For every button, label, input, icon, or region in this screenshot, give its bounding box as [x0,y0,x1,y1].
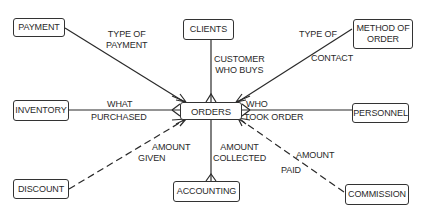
entity-method-of-order-line2: ORDER [367,34,399,45]
entity-commission: COMMISSION [345,184,409,205]
relationship-discount-line1: AMOUNT [152,142,190,153]
relationship-label-method-of-order-line1: TYPE OF [299,29,337,40]
relationship-label-discount: AMOUNT GIVEN [138,142,190,164]
entity-accounting: ACCOUNTING [173,181,240,202]
entity-orders-label: ORDERS [191,106,231,117]
relationship-payment-line2: PAYMENT [106,40,147,51]
entity-accounting-label: ACCOUNTING [177,186,237,197]
relationship-label-personnel: WHO TOOK ORDER [244,99,335,110]
relationship-clients-line2: WHO BUYS [214,65,265,76]
relationship-label-commission-line2: PAID [281,165,301,176]
relationship-payment-line1: TYPE OF [106,29,147,40]
entity-clients: CLIENTS [183,19,234,40]
relationship-inventory-line2: PURCHASED [91,112,147,123]
entity-clients-label: CLIENTS [190,24,227,35]
entity-inventory-label: INVENTORY [15,105,66,116]
entity-commission-label: COMMISSION [348,189,406,200]
entity-method-of-order: METHOD OF ORDER [353,19,413,49]
entity-orders: ORDERS [180,102,242,120]
relationship-discount-line2: GIVEN [138,153,190,164]
entity-payment: PAYMENT [13,18,65,37]
entity-personnel: PERSONNEL [352,103,409,123]
entity-inventory: INVENTORY [13,100,69,121]
relationship-label-inventory: WHAT PURCHASED [91,99,147,123]
relationship-inventory-line1: WHAT [107,99,147,110]
relationship-accounting-line2: COLLECTED [213,153,266,164]
relationship-label-commission-line1: AMOUNT [296,150,334,161]
relationship-label-clients: CUSTOMER WHO BUYS [214,54,265,76]
entity-discount: DISCOUNT [13,179,69,199]
relationship-label-method-of-order-line2: CONTACT [311,53,353,64]
relationship-label-accounting: AMOUNT COLLECTED [213,142,266,164]
relationship-personnel-line1: WHO [246,99,335,110]
relationship-personnel-line2: TOOK ORDER [244,112,303,123]
entity-discount-label: DISCOUNT [18,184,64,195]
entity-method-of-order-line1: METHOD OF [356,23,409,34]
entity-personnel-label: PERSONNEL [353,108,408,119]
relationship-label-payment: TYPE OF PAYMENT [106,29,147,51]
relationship-accounting-line1: AMOUNT [213,142,266,153]
relationship-clients-line1: CUSTOMER [214,54,265,65]
entity-payment-label: PAYMENT [18,22,59,33]
